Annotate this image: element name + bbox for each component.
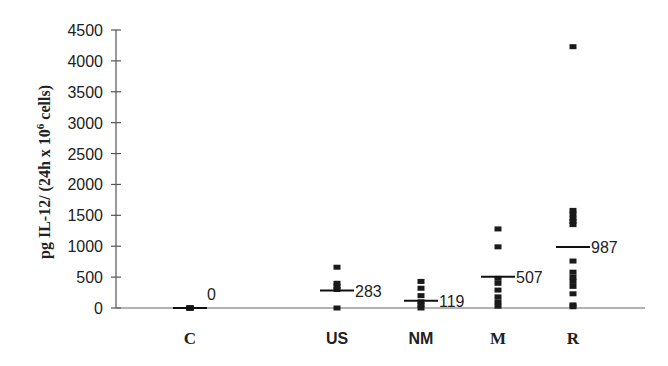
group-c: 0 [173,286,216,311]
data-point [570,44,577,49]
y-tick-label: 3500 [67,84,103,101]
y-tick-label: 1500 [67,207,103,224]
y-tick-label: 3000 [67,115,103,132]
data-point [570,291,577,296]
mean-value-label: 283 [355,283,382,300]
y-axis: 050010001500200025003000350040004500 [67,22,121,317]
data-point [495,299,502,304]
data-point [495,226,502,231]
data-point [495,294,502,299]
category-labels: CUSNMMR [184,329,580,348]
data-point [570,222,577,227]
data-point [418,279,425,284]
y-tick-label: 4000 [67,53,103,70]
category-label-m: M [490,329,506,348]
data-point [570,212,577,217]
data-point [570,304,577,309]
y-tick-label: 4500 [67,22,103,39]
data-point [570,259,577,264]
data-point [570,279,577,284]
data-point [334,265,341,270]
data-groups: 0283119507987 [173,44,618,310]
y-tick-label: 1000 [67,238,103,255]
group-m: 507 [481,226,543,308]
y-tick-label: 2500 [67,146,103,163]
data-point [418,286,425,291]
data-point [418,293,425,298]
y-axis-label: pg IL-12/ (24h x 106 cells) [34,85,54,259]
data-point [570,270,577,275]
mean-value-label: 0 [207,286,216,303]
y-tick-label: 2000 [67,176,103,193]
data-point [570,275,577,280]
category-label-nm: NM [409,330,434,347]
group-nm: 119 [404,279,465,311]
category-label-r: R [567,329,580,348]
category-label-c: C [184,329,196,348]
mean-value-label: 507 [516,269,543,286]
data-point [495,244,502,249]
data-point [570,284,577,289]
data-point [495,304,502,309]
mean-value-label: 987 [591,239,618,256]
scatter-chart: 050010001500200025003000350040004500 pg … [0,0,668,366]
category-label-us: US [326,330,349,347]
group-r: 987 [556,44,618,309]
y-tick-label: 500 [76,269,103,286]
mean-value-label: 119 [439,293,465,310]
data-point [495,288,502,293]
group-us: 283 [320,265,382,311]
data-point [495,281,502,286]
data-point [418,306,425,311]
data-point [334,306,341,311]
y-tick-label: 0 [94,300,103,317]
